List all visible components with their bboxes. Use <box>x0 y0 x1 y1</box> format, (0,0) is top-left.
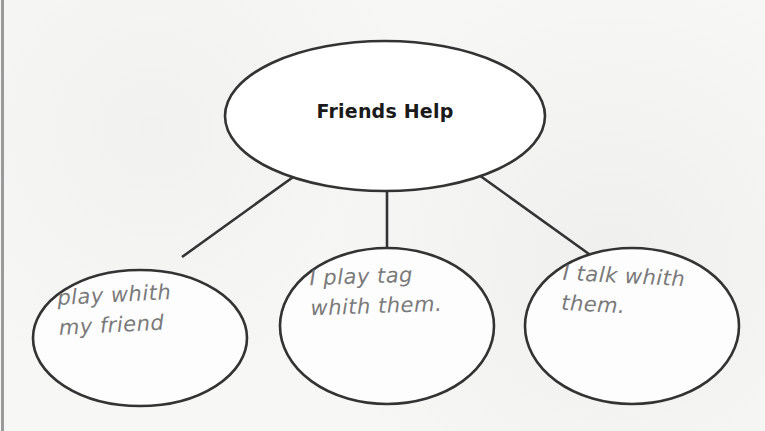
child-node-left-text: play whith my friend <box>57 277 174 343</box>
connector-left <box>182 175 296 257</box>
child-node-middle-text: I play tag whith them. <box>309 259 443 324</box>
worksheet-page: Friends Help play whith my friend I play… <box>0 0 765 431</box>
center-node-label: Friends Help <box>225 100 545 122</box>
child-node-right-text: I talk whith them. <box>561 258 686 324</box>
connector-right <box>479 175 589 254</box>
bubble-map-diagram <box>0 0 765 431</box>
